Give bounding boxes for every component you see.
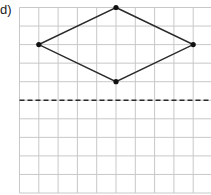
vertex-dot-left [36,42,41,47]
vertex-dot-top [113,5,118,10]
grid-diagram [0,0,211,195]
vertex-dot-bottom [113,79,118,84]
vertex-dot-right [191,42,196,47]
